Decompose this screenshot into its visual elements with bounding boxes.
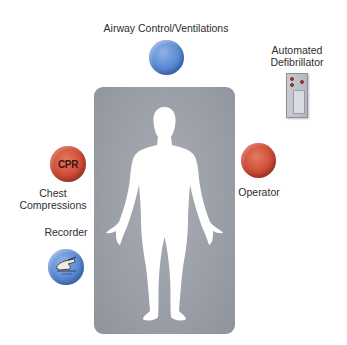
defibrillator-indicator-icon — [300, 80, 304, 84]
patient-area — [94, 87, 235, 334]
chest-compressions-label-line1: Chest — [18, 187, 88, 199]
defibrillator-panel — [293, 90, 305, 114]
operator-label: Operator — [234, 186, 284, 198]
recorder-label: Recorder — [40, 226, 92, 238]
airway-station-marker — [149, 40, 184, 75]
defibrillator-indicator-icon — [290, 77, 294, 81]
human-silhouette-icon — [94, 87, 235, 334]
operator-station-marker — [241, 143, 276, 178]
defibrillator-label-line1: Automated — [262, 44, 332, 56]
hand-writing-icon — [48, 249, 84, 285]
defibrillator-label: Automated Defibrillator — [262, 44, 332, 68]
defibrillator-label-line2: Defibrillator — [262, 56, 332, 68]
chest-compressions-label-line2: Compressions — [18, 199, 88, 211]
cpr-station-marker: CPR — [50, 146, 86, 182]
defibrillator-indicator-icon — [290, 83, 294, 87]
defibrillator-device-icon — [286, 73, 308, 118]
recorder-station-marker — [48, 249, 84, 285]
cpr-badge: CPR — [58, 159, 78, 170]
chest-compressions-label: Chest Compressions — [18, 187, 88, 211]
airway-label: Airway Control/Ventilations — [88, 22, 244, 34]
